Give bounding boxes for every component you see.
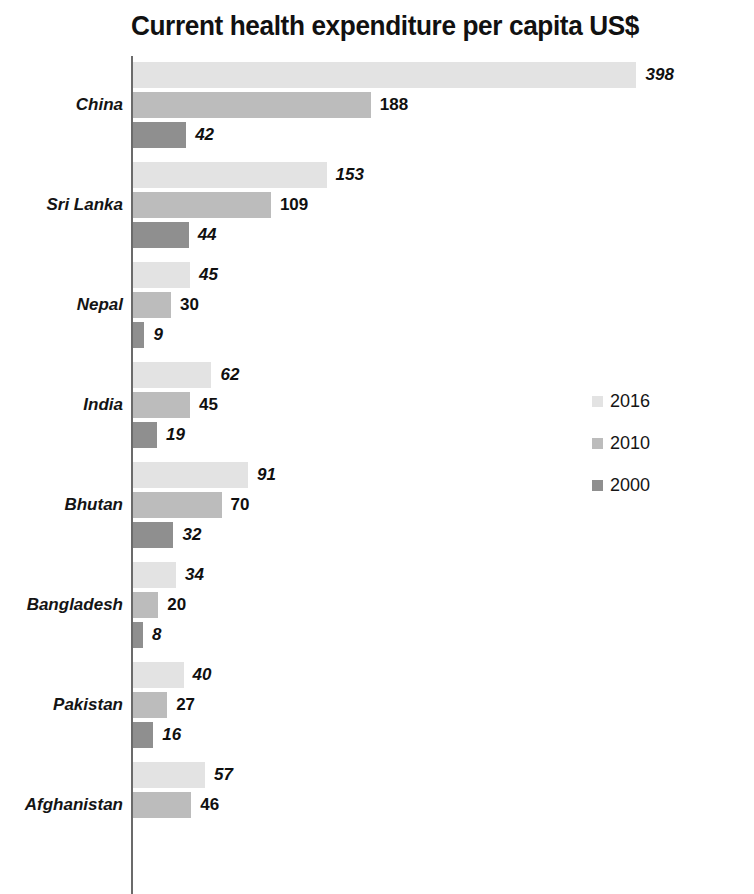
bar-value-label: 32: [182, 524, 201, 546]
legend-swatch-2000-icon: [592, 480, 603, 491]
bar-value-label: 46: [200, 794, 219, 816]
legend-swatch-2010-icon: [592, 438, 603, 449]
bar-value-label: 62: [220, 364, 239, 386]
bar-2000[interactable]: [133, 622, 143, 648]
bar-value-label: 40: [193, 664, 212, 686]
chart-root: Current health expenditure per capita US…: [0, 0, 754, 894]
bar-2016[interactable]: [133, 362, 211, 388]
bar-2000[interactable]: [133, 222, 189, 248]
bar-value-label: 45: [199, 394, 218, 416]
bar-value-label: 70: [231, 494, 250, 516]
category-label: Bangladesh: [0, 595, 123, 615]
bar-2010[interactable]: [133, 392, 190, 418]
bar-group: Afghanistan5746: [0, 752, 754, 852]
bar-value-label: 30: [180, 294, 199, 316]
bar-2016[interactable]: [133, 162, 327, 188]
legend-item[interactable]: 2000: [592, 472, 712, 514]
category-label: Nepal: [0, 295, 123, 315]
category-label: Pakistan: [0, 695, 123, 715]
bar-2000[interactable]: [133, 422, 157, 448]
bar-2010[interactable]: [133, 92, 371, 118]
bar-2010[interactable]: [133, 592, 158, 618]
bar-value-label: 16: [162, 724, 181, 746]
bar-2010[interactable]: [133, 792, 191, 818]
bar-value-label: 19: [166, 424, 185, 446]
bar-2016[interactable]: [133, 562, 176, 588]
legend-item[interactable]: 2010: [592, 430, 712, 472]
bar-2016[interactable]: [133, 762, 205, 788]
bar-2010[interactable]: [133, 492, 222, 518]
bar-2010[interactable]: [133, 692, 167, 718]
bar-2016[interactable]: [133, 262, 190, 288]
category-label: India: [0, 395, 123, 415]
bar-value-label: 42: [195, 124, 214, 146]
bar-value-label: 188: [380, 94, 408, 116]
bar-value-label: 57: [214, 764, 233, 786]
bar-value-label: 91: [257, 464, 276, 486]
legend-label: 2016: [610, 388, 650, 414]
bar-2016[interactable]: [133, 662, 184, 688]
bar-value-label: 109: [280, 194, 308, 216]
legend-swatch-2016-icon: [592, 396, 603, 407]
bar-value-label: 9: [153, 324, 162, 346]
bar-value-label: 27: [176, 694, 195, 716]
bar-group: Pakistan402716: [0, 652, 754, 752]
bar-value-label: 44: [198, 224, 217, 246]
bar-2016[interactable]: [133, 62, 636, 88]
legend-label: 2010: [610, 430, 650, 456]
bar-2016[interactable]: [133, 462, 248, 488]
bar-2000[interactable]: [133, 322, 144, 348]
bar-value-label: 398: [645, 64, 673, 86]
bar-value-label: 20: [167, 594, 186, 616]
bar-value-label: 34: [185, 564, 204, 586]
bar-group: Nepal45309: [0, 252, 754, 352]
bar-value-label: 45: [199, 264, 218, 286]
bar-group: Bangladesh34208: [0, 552, 754, 652]
bar-value-label: 8: [152, 624, 161, 646]
category-label: China: [0, 95, 123, 115]
bar-2000[interactable]: [133, 722, 153, 748]
bar-group: Sri Lanka15310944: [0, 152, 754, 252]
category-label: Afghanistan: [0, 795, 123, 815]
bar-2010[interactable]: [133, 292, 171, 318]
bar-group: China39818842: [0, 52, 754, 152]
legend: 201620102000: [592, 388, 712, 514]
bar-value-label: 153: [336, 164, 364, 186]
bar-2000[interactable]: [133, 522, 173, 548]
bar-2010[interactable]: [133, 192, 271, 218]
category-label: Bhutan: [0, 495, 123, 515]
legend-label: 2000: [610, 472, 650, 498]
category-label: Sri Lanka: [0, 195, 123, 215]
chart-title: Current health expenditure per capita US…: [31, 6, 739, 46]
legend-item[interactable]: 2016: [592, 388, 712, 430]
bar-2000[interactable]: [133, 122, 186, 148]
